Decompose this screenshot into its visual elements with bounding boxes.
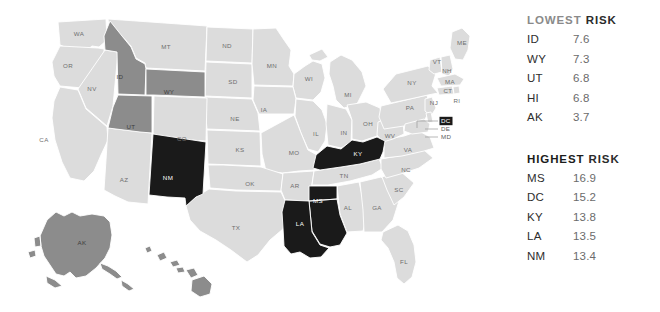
state-AZ[interactable] xyxy=(104,128,152,204)
legend-row: NM13.4 xyxy=(527,250,653,270)
legend-state-value: 7.3 xyxy=(573,53,590,65)
state-NM[interactable] xyxy=(149,134,206,206)
legend-block-lowest: LOWEST RISK ID7.6WY7.3UT6.8HI6.8AK3.7 xyxy=(527,14,653,131)
state-AK-aleutians[interactable] xyxy=(100,263,134,291)
legend-block-highest: HIGHEST RISK MS16.9DC15.2KY13.8LA13.5NM1… xyxy=(527,153,653,270)
state-CO[interactable] xyxy=(153,96,207,141)
legend-state-value: 6.8 xyxy=(573,72,590,84)
legend-state-abbr: HI xyxy=(527,92,573,104)
state-IA[interactable] xyxy=(253,86,296,114)
legend-heading-highest-word2: RISK xyxy=(589,153,620,165)
legend-heading-lowest-word2: RISK xyxy=(586,14,617,26)
legend-state-abbr: UT xyxy=(527,72,573,84)
legend-heading-lowest-word1: LOWEST xyxy=(527,14,582,26)
legend-state-abbr: LA xyxy=(527,230,573,242)
legend-state-value: 13.5 xyxy=(573,230,596,242)
state-shapes-group xyxy=(28,19,470,297)
legend-heading-lowest: LOWEST RISK xyxy=(527,14,653,26)
callout-label-group: DCDEMD xyxy=(440,117,453,140)
state-ND[interactable] xyxy=(206,27,253,63)
legend-rows-highest: MS16.9DC15.2KY13.8LA13.5NM13.4 xyxy=(527,172,653,270)
legend-state-value: 3.7 xyxy=(573,111,590,123)
legend-row: AK3.7 xyxy=(527,111,653,131)
legend-state-abbr: AK xyxy=(527,111,573,123)
state-SD[interactable] xyxy=(205,62,252,98)
legend-state-abbr: NM xyxy=(527,250,573,262)
callout-label-dc: DC xyxy=(441,117,451,124)
legend-state-abbr: KY xyxy=(527,211,573,223)
legend-state-value: 7.6 xyxy=(573,33,590,45)
legend-row: HI6.8 xyxy=(527,92,653,112)
state-NH[interactable] xyxy=(441,55,453,76)
legend-heading-highest: HIGHEST RISK xyxy=(527,153,653,165)
legend-heading-highest-word1: HIGHEST xyxy=(527,153,584,165)
legend-state-value: 13.8 xyxy=(573,211,596,223)
us-choropleth-map: WAORIDMTWYNDMNSDWINVUTCONEIAILINOHMICAAZ… xyxy=(0,0,500,312)
legend-row: LA13.5 xyxy=(527,230,653,250)
risk-legend: LOWEST RISK ID7.6WY7.3UT6.8HI6.8AK3.7 HI… xyxy=(527,14,653,291)
state-KS[interactable] xyxy=(207,130,261,166)
state-label-ri: RI xyxy=(454,97,461,104)
callout-label-md: MD xyxy=(441,133,452,140)
state-ME[interactable] xyxy=(450,28,470,60)
state-NE[interactable] xyxy=(205,97,260,131)
state-UT[interactable] xyxy=(108,95,152,133)
state-WI[interactable] xyxy=(293,61,325,100)
callout-label-de: DE xyxy=(441,125,450,132)
state-FL[interactable] xyxy=(381,225,416,284)
legend-state-value: 15.2 xyxy=(573,191,596,203)
map-svg: WAORIDMTWYNDMNSDWINVUTCONEIAILINOHMICAAZ… xyxy=(0,0,500,312)
legend-state-value: 16.9 xyxy=(573,172,596,184)
state-RI[interactable] xyxy=(453,86,460,94)
state-TX[interactable] xyxy=(186,189,289,262)
legend-state-value: 6.8 xyxy=(573,92,590,104)
legend-row: WY7.3 xyxy=(527,53,653,73)
legend-state-abbr: WY xyxy=(527,53,573,65)
state-AK[interactable] xyxy=(28,212,112,288)
state-label-ca: CA xyxy=(39,136,49,143)
legend-state-value: 13.4 xyxy=(573,250,596,262)
legend-row: KY13.8 xyxy=(527,211,653,231)
infographic-root: WAORIDMTWYNDMNSDWINVUTCONEIAILINOHMICAAZ… xyxy=(0,0,660,312)
legend-row: DC15.2 xyxy=(527,191,653,211)
state-MA[interactable] xyxy=(437,74,464,86)
legend-row: ID7.6 xyxy=(527,33,653,53)
legend-row: UT6.8 xyxy=(527,72,653,92)
state-IN[interactable] xyxy=(326,104,352,148)
state-WY[interactable] xyxy=(146,69,205,97)
state-HI[interactable] xyxy=(145,246,212,297)
state-MN[interactable] xyxy=(252,28,294,86)
legend-state-abbr: ID xyxy=(527,33,573,45)
state-CT[interactable] xyxy=(437,86,454,95)
state-VT[interactable] xyxy=(429,57,442,74)
legend-rows-lowest: ID7.6WY7.3UT6.8HI6.8AK3.7 xyxy=(527,33,653,131)
legend-state-abbr: MS xyxy=(527,172,573,184)
legend-row: MS16.9 xyxy=(527,172,653,192)
legend-state-abbr: DC xyxy=(527,191,573,203)
